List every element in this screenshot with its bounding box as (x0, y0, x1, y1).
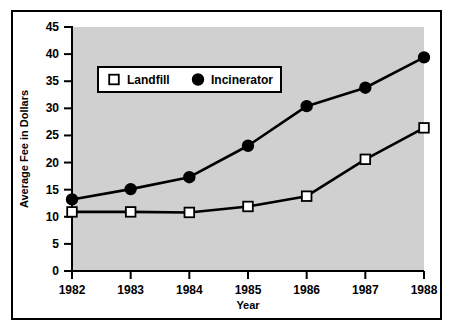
x-tick-label: 1986 (293, 283, 320, 297)
y-axis-ticks: 051015202530354045 (46, 20, 72, 278)
line-chart[interactable]: 051015202530354045 198219831984198519861… (0, 0, 454, 333)
data-point-incinerator-1982[interactable] (67, 194, 78, 205)
legend-marker-filled-circle-icon (193, 74, 204, 85)
legend-marker-open-square-icon (109, 75, 119, 85)
x-tick-label: 1982 (59, 283, 86, 297)
data-point-incinerator-1985[interactable] (243, 140, 254, 151)
data-point-incinerator-1987[interactable] (360, 82, 371, 93)
y-tick-label: 5 (52, 237, 59, 251)
data-point-landfill-1984[interactable] (185, 208, 195, 218)
x-axis-label: Year (236, 299, 260, 311)
data-point-incinerator-1984[interactable] (184, 172, 195, 183)
y-tick-label: 40 (46, 47, 60, 61)
x-tick-label: 1985 (235, 283, 262, 297)
chart-legend[interactable]: LandfillIncinerator (98, 67, 281, 92)
y-tick-label: 25 (46, 128, 60, 142)
data-point-incinerator-1983[interactable] (125, 184, 136, 195)
x-tick-label: 1988 (411, 283, 438, 297)
x-tick-label: 1984 (176, 283, 203, 297)
data-point-landfill-1988[interactable] (419, 123, 429, 133)
x-tick-label: 1983 (117, 283, 144, 297)
data-point-landfill-1987[interactable] (361, 155, 371, 165)
data-point-landfill-1986[interactable] (302, 191, 312, 201)
data-point-incinerator-1988[interactable] (419, 52, 430, 63)
figure: 051015202530354045 198219831984198519861… (0, 0, 454, 333)
y-tick-label: 45 (46, 20, 60, 34)
data-point-landfill-1982[interactable] (67, 207, 77, 217)
y-tick-label: 30 (46, 101, 60, 115)
y-axis-label: Average Fee in Dollars (18, 90, 30, 208)
legend-label-incinerator[interactable]: Incinerator (211, 73, 273, 87)
data-point-incinerator-1986[interactable] (301, 101, 312, 112)
data-point-landfill-1983[interactable] (126, 207, 136, 217)
y-tick-label: 10 (46, 210, 60, 224)
x-tick-label: 1987 (352, 283, 379, 297)
legend-label-landfill[interactable]: Landfill (127, 73, 170, 87)
data-point-landfill-1985[interactable] (243, 202, 253, 212)
y-tick-label: 15 (46, 183, 60, 197)
y-tick-label: 0 (52, 264, 59, 278)
y-tick-label: 20 (46, 156, 60, 170)
x-axis-ticks: 1982198319841985198619871988 (59, 271, 438, 297)
y-tick-label: 35 (46, 74, 60, 88)
